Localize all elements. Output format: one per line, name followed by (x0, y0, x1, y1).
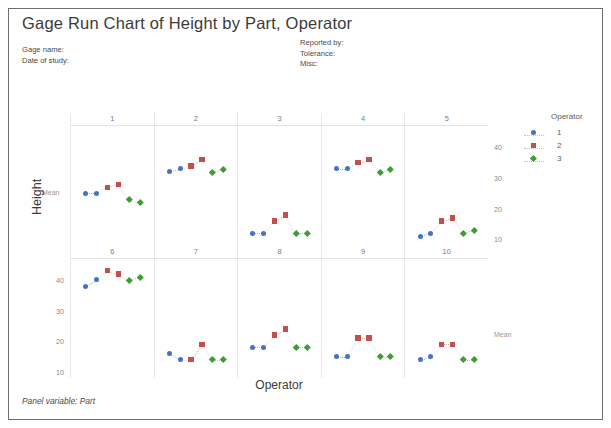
panel-plot-9 (322, 259, 405, 379)
legend-label: 2 (557, 141, 561, 150)
data-point-operator-2 (116, 182, 121, 187)
panel-label: 2 (155, 114, 238, 123)
panel-part-3: 3 (237, 113, 321, 246)
panel-label: 8 (238, 247, 321, 256)
data-point-operator-2 (105, 268, 110, 273)
panel-label: 5 (405, 114, 488, 123)
data-point-operator-1 (261, 345, 266, 350)
data-point-operator-1 (94, 277, 99, 282)
data-point-operator-1 (418, 357, 423, 362)
panel-header-8: 8 (238, 246, 321, 259)
data-point-operator-3 (137, 199, 143, 205)
data-point-operator-3 (304, 230, 310, 236)
panel-part-1: 1 (70, 113, 154, 246)
panel-header-3: 3 (238, 113, 321, 126)
legend-title: Operator (551, 112, 583, 121)
data-point-operator-1 (178, 166, 183, 171)
data-point-operator-1 (250, 231, 255, 236)
panel-plot-3 (238, 126, 321, 246)
data-point-operator-2 (199, 342, 204, 347)
panel-grid: 12345 678910 (70, 113, 488, 378)
data-point-operator-2 (439, 218, 444, 223)
data-point-operator-1 (83, 284, 88, 289)
data-point-operator-1 (83, 191, 88, 196)
data-point-operator-2 (439, 342, 444, 347)
panel-plot-2 (155, 126, 238, 246)
data-point-operator-2 (188, 357, 193, 362)
data-point-operator-3 (209, 356, 215, 362)
y-tick-label: 30 (494, 174, 502, 183)
panel-header-4: 4 (322, 113, 405, 126)
mean-label-right: Mean (494, 331, 512, 338)
data-point-operator-2 (199, 157, 204, 162)
panel-header-5: 5 (405, 113, 488, 126)
panel-header-7: 7 (155, 246, 238, 259)
panel-variable-footer: Panel variable: Part (22, 396, 95, 406)
data-point-operator-1 (428, 231, 433, 236)
data-point-operator-1 (167, 169, 172, 174)
data-point-operator-3 (293, 344, 299, 350)
y-tick-label: 30 (44, 307, 64, 316)
data-point-operator-1 (334, 354, 339, 359)
data-point-operator-2 (283, 326, 288, 331)
data-point-operator-1 (418, 234, 423, 239)
panel-header-1: 1 (71, 113, 154, 126)
panel-part-9: 9 (321, 246, 405, 379)
panel-label: 1 (71, 114, 154, 123)
data-point-operator-1 (250, 345, 255, 350)
legend-entry-3[interactable]: 3 (523, 152, 593, 165)
panel-part-6: 6 (70, 246, 154, 379)
data-point-operator-3 (137, 274, 143, 280)
data-point-operator-3 (460, 356, 466, 362)
panel-header-6: 6 (71, 246, 154, 259)
data-point-operator-3 (377, 353, 383, 359)
panel-plot-7 (155, 259, 238, 379)
data-point-operator-3 (471, 356, 477, 362)
y-tick-label: 40 (494, 143, 502, 152)
panel-part-8: 8 (237, 246, 321, 379)
data-point-operator-2 (105, 185, 110, 190)
panel-label: 4 (322, 114, 405, 123)
data-point-operator-2 (188, 163, 193, 168)
data-point-operator-1 (428, 354, 433, 359)
data-point-operator-2 (366, 157, 371, 162)
data-point-operator-1 (345, 354, 350, 359)
plot-area: 12345 678910 Mean Mean Height Operator 4… (0, 0, 595, 412)
legend-entry-2[interactable]: 2 (523, 139, 593, 152)
gage-run-chart-page: Gage Run Chart of Height by Part, Operat… (0, 0, 611, 428)
data-point-operator-3 (220, 166, 226, 172)
panel-part-7: 7 (154, 246, 238, 379)
data-point-operator-1 (345, 166, 350, 171)
y-tick-label: 20 (44, 337, 64, 346)
panel-label: 3 (238, 114, 321, 123)
data-point-operator-2 (366, 335, 371, 340)
panel-plot-8 (238, 259, 321, 379)
panel-part-4: 4 (321, 113, 405, 246)
panel-label: 10 (405, 247, 488, 256)
data-point-operator-3 (388, 353, 394, 359)
data-point-operator-3 (126, 277, 132, 283)
panel-plot-4 (322, 126, 405, 246)
panel-header-2: 2 (155, 113, 238, 126)
panel-plot-6 (71, 259, 154, 379)
y-tick-label: 20 (494, 205, 502, 214)
panel-header-9: 9 (322, 246, 405, 259)
panel-plot-5 (405, 126, 488, 246)
legend-entry-1[interactable]: 1 (523, 126, 593, 139)
legend-label: 1 (557, 128, 561, 137)
y-tick-label: 10 (44, 368, 64, 377)
data-point-operator-1 (334, 166, 339, 171)
panel-row-bottom: 678910 (70, 246, 488, 379)
legend-marker-circle-icon (531, 130, 536, 135)
data-point-operator-2 (116, 271, 121, 276)
data-point-operator-2 (355, 160, 360, 165)
panel-label: 9 (322, 247, 405, 256)
data-point-operator-3 (471, 227, 477, 233)
x-axis-title: Operator (70, 378, 488, 392)
data-point-operator-2 (450, 215, 455, 220)
data-point-operator-2 (272, 218, 277, 223)
y-tick-label: 40 (44, 276, 64, 285)
data-point-operator-2 (355, 335, 360, 340)
legend-line (524, 135, 544, 136)
data-point-operator-1 (261, 231, 266, 236)
